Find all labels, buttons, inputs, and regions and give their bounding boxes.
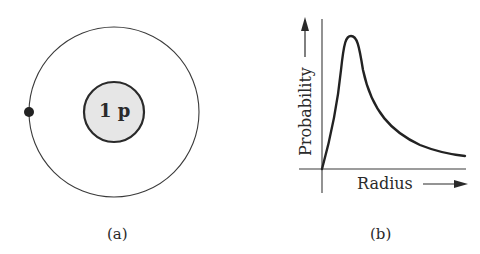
- figure-canvas: [0, 0, 480, 254]
- nucleus-label: 1 p: [99, 100, 130, 121]
- electron: [24, 107, 34, 117]
- y-label-arrowhead-icon: [301, 17, 309, 31]
- x-axis-label: Radius: [357, 174, 413, 193]
- caption-b: (b): [370, 225, 391, 243]
- y-axis-label: Probability: [296, 67, 315, 156]
- probability-curve: [322, 36, 465, 169]
- caption-a: (a): [107, 225, 128, 243]
- radial-probability-plot: [299, 17, 468, 193]
- x-label-arrowhead-icon: [454, 180, 468, 188]
